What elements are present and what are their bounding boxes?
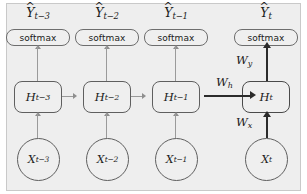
output-subscript-t-2: t−2 xyxy=(103,11,118,21)
rnn-diagram: ^Yt−3 softmax Ht−3 Xt−3 ^Yt−2 softmax Ht… xyxy=(0,0,307,194)
line-hidden-to-softmax-t-3 xyxy=(37,46,38,81)
arrow-hidden-recurrence-t-2-to-t-1 xyxy=(142,93,146,99)
hidden-subscript-t-1: t−1 xyxy=(174,93,188,102)
weight-subscript-input: x xyxy=(248,121,253,130)
hidden-symbol-t-1: H xyxy=(164,90,174,104)
timestep-column-t-3: ^Yt−3 softmax Ht−3 Xt−3 xyxy=(0,0,76,194)
softmax-node-t-1[interactable]: softmax xyxy=(144,29,208,46)
input-node-t-3[interactable]: Xt−3 xyxy=(17,138,60,181)
weight-symbol-hidden: W xyxy=(216,75,228,89)
hidden-symbol-t: H xyxy=(259,90,269,104)
hidden-node-t-1[interactable]: Ht−1 xyxy=(152,81,200,113)
input-subscript-t-1: t−1 xyxy=(174,155,187,164)
hat-accent-t: ^ xyxy=(260,1,269,12)
input-symbol-t-3: X xyxy=(28,153,36,166)
input-node-t-2[interactable]: Xt−2 xyxy=(86,138,129,181)
weight-subscript-output: y xyxy=(248,59,253,68)
weight-label-hidden: Wh xyxy=(216,77,233,90)
line-hidden-to-softmax-t-1 xyxy=(175,46,176,81)
input-node-t[interactable]: Xt xyxy=(245,138,288,181)
timestep-column-t-2: ^Yt−2 softmax Ht−2 Xt−2 xyxy=(69,0,145,194)
input-node-t-1[interactable]: Xt−1 xyxy=(155,138,198,181)
output-label-t: ^Yt xyxy=(228,7,304,21)
weight-subscript-hidden: h xyxy=(228,81,233,90)
line-input-to-hidden-t-2 xyxy=(106,113,107,138)
hidden-node-t-2[interactable]: Ht−2 xyxy=(83,81,131,113)
output-label-t-1: ^Yt−1 xyxy=(138,7,214,21)
hidden-subscript-t: t xyxy=(270,93,273,102)
hidden-node-t-3[interactable]: Ht−3 xyxy=(14,81,62,113)
line-input-to-hidden-t-3 xyxy=(37,113,38,138)
output-subscript-t-1: t−1 xyxy=(172,11,187,21)
output-label-t-3: ^Yt−3 xyxy=(0,7,76,21)
line-input-to-hidden-t-1 xyxy=(175,113,176,138)
line-hidden-to-softmax-t-2 xyxy=(106,46,107,81)
input-symbol-t: X xyxy=(261,153,269,166)
weight-symbol-input: W xyxy=(236,115,248,129)
weight-label-output: Wy xyxy=(236,55,252,68)
timestep-column-t: ^Yt softmax Ht Xt xyxy=(228,0,304,194)
line-weight-output xyxy=(266,47,268,81)
output-subscript-t-3: t−3 xyxy=(34,11,49,21)
line-weight-input xyxy=(266,115,268,138)
hat-accent-t-3: ^ xyxy=(26,1,35,12)
arrow-hidden-recurrence-t-3-to-t-2 xyxy=(73,93,77,99)
hidden-subscript-t-2: t−2 xyxy=(105,93,119,102)
arrow-weight-hidden xyxy=(250,91,256,99)
softmax-node-t-2[interactable]: softmax xyxy=(75,29,139,46)
hat-accent-t-1: ^ xyxy=(164,1,173,12)
timestep-column-t-1: ^Yt−1 softmax Ht−1 Xt−1 xyxy=(138,0,214,194)
softmax-node-t-3[interactable]: softmax xyxy=(6,29,70,46)
hidden-subscript-t-3: t−3 xyxy=(36,93,50,102)
line-weight-hidden xyxy=(204,95,251,97)
hidden-symbol-t-2: H xyxy=(95,90,105,104)
arrow-weight-input xyxy=(263,111,271,117)
weight-symbol-output: W xyxy=(236,53,248,67)
output-label-t-2: ^Yt−2 xyxy=(69,7,145,21)
input-symbol-t-2: X xyxy=(97,153,105,166)
hidden-symbol-t-3: H xyxy=(26,90,36,104)
weight-label-input: Wx xyxy=(236,117,252,130)
input-subscript-t: t xyxy=(269,155,272,164)
input-symbol-t-1: X xyxy=(166,153,174,166)
hat-accent-t-2: ^ xyxy=(95,1,104,12)
arrow-weight-output xyxy=(263,42,271,48)
input-subscript-t-3: t−3 xyxy=(36,155,49,164)
input-subscript-t-2: t−2 xyxy=(105,155,118,164)
